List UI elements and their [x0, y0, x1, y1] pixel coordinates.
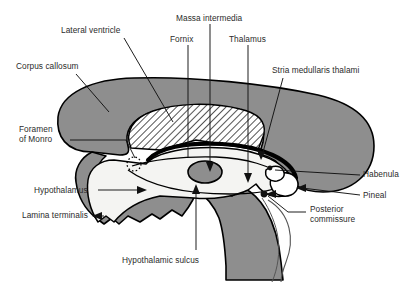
label-pineal: Pineal: [363, 191, 386, 201]
label-posterior-commissure: Posterior commissure: [310, 205, 355, 224]
label-fornix: Fornix: [170, 35, 193, 45]
label-corpus-callosum: Corpus callosum: [16, 62, 79, 72]
label-thalamus: Thalamus: [229, 35, 266, 45]
label-habenula: Habenula: [363, 170, 399, 180]
diagram-canvas: [0, 0, 420, 291]
label-stria-medullaris-thalami: Stria medullaris thalami: [272, 66, 359, 76]
massa-intermedia-region: [188, 161, 222, 183]
label-lateral-ventricle: Lateral ventricle: [61, 26, 120, 36]
label-foramen-of-monro: Foramen of Monro: [19, 125, 53, 144]
label-hypothalamus: Hypothalamus: [34, 186, 88, 196]
label-massa-intermedia: Massa intermedia: [176, 14, 242, 24]
label-hypothalamic-sulcus: Hypothalamic sulcus: [122, 256, 199, 266]
brain-midsagittal-diagram: Lateral ventricle Corpus callosum Massa …: [0, 0, 420, 291]
habenula-marker: [268, 166, 273, 171]
label-lamina-terminalis: Lamina terminalis: [22, 211, 88, 221]
